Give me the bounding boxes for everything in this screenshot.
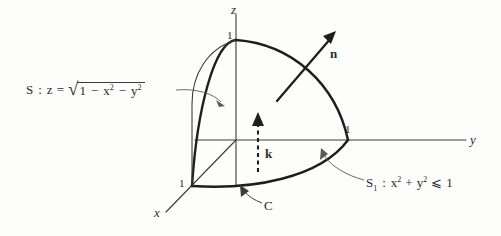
diagram-canvas (0, 0, 501, 236)
disk-label-leader (320, 148, 364, 180)
disk-plus: + (405, 175, 412, 190)
surface-equation-label: S : z = √ 1−x2−y2 (26, 82, 145, 97)
surface-name: S (26, 83, 33, 96)
vector-calculus-diagram: S : z = √ 1−x2−y2 S1:x2+y2⩽1 z y x 1 1 1… (0, 0, 501, 236)
radicand-x-exponent: 2 (110, 83, 114, 92)
disk-name-subscript: 1 (373, 184, 377, 193)
disk-x-exponent: 2 (397, 175, 401, 184)
disk-relation: ⩽ (431, 175, 442, 190)
disk-colon: : (382, 175, 386, 190)
disk-y-exponent: 2 (423, 175, 427, 184)
surface-colon: : (38, 83, 42, 96)
arc-xz-plane (192, 40, 236, 186)
z-axis-label: z (231, 3, 236, 16)
disk-leader-arrowhead (320, 148, 328, 160)
x-axis-tick-1: 1 (179, 178, 185, 189)
x-axis-label: x (154, 206, 160, 219)
curve-c-leader (240, 185, 262, 203)
x-axis (166, 140, 236, 212)
surface-equals: = (57, 83, 64, 96)
z-axis-tick-1: 1 (227, 30, 233, 41)
y-axis-label: y (470, 133, 476, 146)
k-vector (252, 112, 264, 172)
normal-vector-shaft (277, 38, 331, 101)
square-root-expression: √ 1−x2−y2 (68, 82, 145, 97)
radicand-y-exponent: 2 (138, 83, 142, 92)
curve-c-label: C (264, 199, 273, 212)
disk-bound: 1 (446, 175, 453, 190)
k-vector-label: k (265, 147, 272, 160)
radicand-minus-2: − (119, 83, 126, 98)
y-axis-tick-1: 1 (345, 124, 351, 135)
normal-vector-label: n (330, 47, 337, 60)
normal-vector-arrowhead (323, 31, 336, 44)
radicand-one: 1 (79, 83, 86, 98)
radicand-minus-1: − (91, 83, 98, 98)
upper-left-edge (192, 40, 236, 104)
radicand: 1−x2−y2 (77, 82, 144, 97)
disk-region-label: S1:x2+y2⩽1 (366, 176, 453, 189)
curve-c-leader-line (244, 191, 262, 203)
k-vector-arrowhead (252, 112, 264, 126)
surface-leader-line (176, 90, 221, 102)
surface-label-leader (176, 90, 225, 107)
surface-variable: z (47, 83, 53, 96)
